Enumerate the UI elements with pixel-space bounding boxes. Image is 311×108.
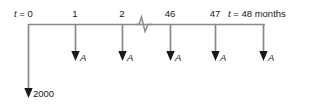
cash-flow-label-0: 2000 — [33, 88, 54, 99]
cash-flow-label-46: A — [175, 52, 181, 63]
time-label-1: 1 — [72, 8, 77, 19]
cash-flow-arrowhead-1 — [71, 51, 79, 61]
cash-flow-arrowhead-46 — [166, 51, 174, 61]
cash-flow-arrowhead-47 — [211, 51, 219, 61]
time-label-48: t = 48 months — [228, 8, 286, 19]
cash-flow-diagram: t = 0 1 2 46 47 t = 48 months 2000 A A A… — [0, 0, 311, 108]
time-label-48-value: = 48 months — [231, 8, 286, 19]
time-label-46: 46 — [165, 8, 176, 19]
cash-flow-label-47: A — [220, 52, 226, 63]
time-label-t0-value: = 0 — [17, 8, 33, 19]
timeline-break-icon — [136, 17, 152, 32]
time-label-2: 2 — [119, 8, 124, 19]
cash-flow-arrowhead-48 — [259, 51, 267, 61]
cash-flow-label-1: A — [80, 52, 86, 63]
cash-flow-label-2: A — [127, 52, 133, 63]
time-label-t0: t = 0 — [14, 8, 33, 19]
cash-flow-arrowhead-0 — [24, 88, 32, 98]
cash-flow-arrowhead-2 — [118, 51, 126, 61]
cash-flow-label-48: A — [268, 52, 274, 63]
time-label-47: 47 — [210, 8, 221, 19]
